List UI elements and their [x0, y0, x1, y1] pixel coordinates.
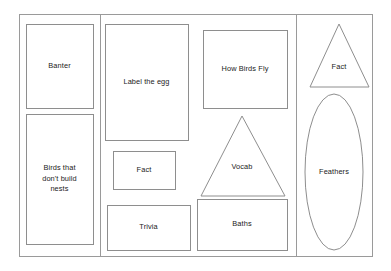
vocab-card-label: Vocab — [231, 162, 252, 171]
board-svg-canvas: BanterBirds thatdon't buildnestsLabel th… — [0, 0, 391, 271]
fact-card-right-label: Fact — [332, 62, 347, 71]
banter-card[interactable]: Banter — [27, 25, 94, 109]
baths-card-label: Baths — [232, 219, 252, 228]
banter-card-label: Banter — [48, 61, 71, 70]
birds-that-dont-build-nests-card[interactable]: Birds thatdon't buildnests — [27, 115, 94, 245]
birds-that-dont-build-nests-card-label: don't build — [42, 174, 77, 183]
baths-card[interactable]: Baths — [198, 200, 288, 251]
fact-card-center[interactable]: Fact — [114, 152, 176, 190]
label-the-egg-card[interactable]: Label the egg — [106, 25, 189, 141]
how-birds-fly-card[interactable]: How Birds Fly — [204, 31, 288, 109]
feathers-card-label: Feathers — [319, 167, 349, 176]
label-the-egg-card-label: Label the egg — [123, 77, 169, 86]
fact-card-center-label: Fact — [137, 165, 152, 174]
trivia-card-label: Trivia — [139, 222, 158, 231]
birds-that-dont-build-nests-card-label: Birds that — [43, 163, 75, 172]
birds-that-dont-build-nests-card-label: nests — [50, 184, 68, 193]
how-birds-fly-card-label: How Birds Fly — [222, 64, 269, 73]
feathers-card[interactable]: Feathers — [305, 94, 363, 250]
trivia-card[interactable]: Trivia — [108, 206, 191, 251]
display-board-diagram: BanterBirds thatdon't buildnestsLabel th… — [0, 0, 391, 271]
